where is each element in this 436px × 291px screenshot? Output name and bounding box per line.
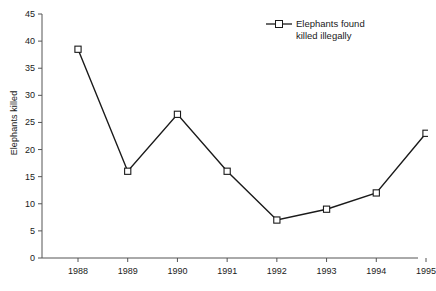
legend-label-line1: Elephants found — [296, 18, 365, 30]
x-tick-label: 1988 — [68, 266, 88, 276]
data-point-marker — [373, 190, 379, 196]
y-tick-label: 15 — [0, 172, 35, 182]
series-markers-elephants-found-killed-illegally — [75, 46, 428, 223]
y-tick-label: 10 — [0, 199, 35, 209]
x-axis-ticks — [78, 258, 426, 262]
x-tick-label: 1992 — [267, 266, 287, 276]
y-tick-label: 5 — [0, 226, 35, 236]
data-point-marker — [323, 206, 329, 212]
legend: Elephants found killed illegally — [266, 18, 365, 41]
y-tick-label: 30 — [0, 90, 35, 100]
y-tick-label: 20 — [0, 145, 35, 155]
x-tick-label: 1990 — [167, 266, 187, 276]
data-point-marker — [125, 168, 131, 174]
x-tick-label: 1991 — [217, 266, 237, 276]
x-tick-label: 1994 — [366, 266, 386, 276]
y-tick-label: 40 — [0, 36, 35, 46]
data-point-marker — [274, 217, 280, 223]
x-tick-label: 1989 — [118, 266, 138, 276]
y-tick-label: 45 — [0, 9, 35, 19]
legend-label: Elephants found killed illegally — [296, 18, 365, 41]
data-point-marker — [75, 46, 81, 52]
data-point-marker — [224, 168, 230, 174]
legend-marker-icon — [266, 18, 292, 30]
y-tick-label: 0 — [0, 253, 35, 263]
y-tick-label: 25 — [0, 117, 35, 127]
data-point-marker — [423, 130, 428, 136]
legend-label-line2: killed illegally — [296, 30, 365, 42]
y-axis-ticks — [38, 14, 42, 258]
x-tick-label: 1993 — [317, 266, 337, 276]
x-tick-label: 1995 — [416, 266, 436, 276]
data-point-marker — [174, 111, 180, 117]
y-tick-label: 35 — [0, 63, 35, 73]
axis-lines — [42, 14, 418, 258]
